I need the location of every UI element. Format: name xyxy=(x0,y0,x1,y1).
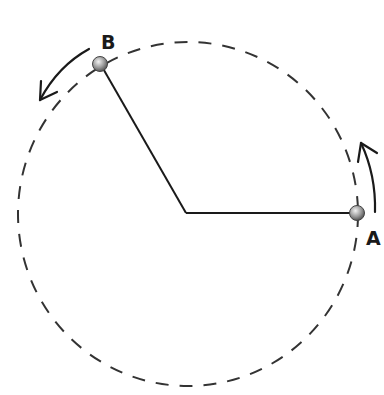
point-a xyxy=(350,206,365,221)
arrow-a-icon xyxy=(358,143,377,212)
arrow-b-icon xyxy=(40,49,89,100)
point-b xyxy=(93,57,108,72)
circular-motion-diagram: A B xyxy=(0,0,384,395)
label-b: B xyxy=(101,31,115,53)
label-a: A xyxy=(366,227,381,249)
radius-line-b xyxy=(101,65,186,213)
